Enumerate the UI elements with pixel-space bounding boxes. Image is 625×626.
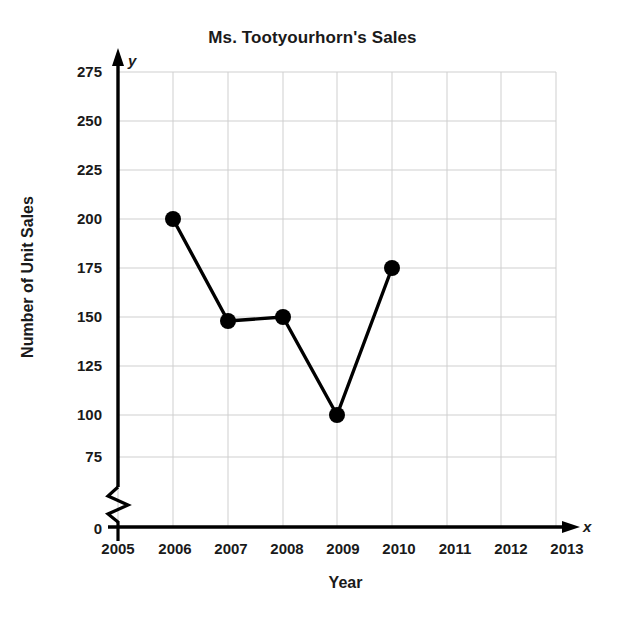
gridlines-vertical: [118, 72, 556, 527]
data-point-2010[interactable]: [384, 260, 400, 276]
data-point-2008[interactable]: [275, 309, 291, 325]
data-point-2006[interactable]: [165, 211, 181, 227]
plot-area: [0, 0, 625, 626]
data-point-2009[interactable]: [329, 407, 345, 423]
data-point-2007[interactable]: [220, 313, 236, 329]
x-axis: [108, 521, 580, 541]
line-chart: Ms. Tootyourhorn's Sales Number of Unit …: [0, 0, 625, 626]
y-axis: [108, 48, 128, 522]
